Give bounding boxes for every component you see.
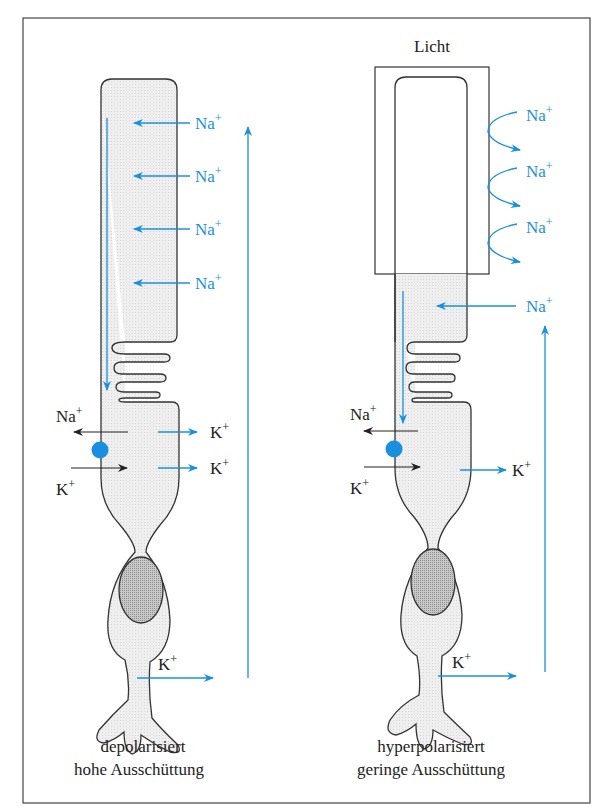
svg-text:Na+: Na+ <box>195 111 222 133</box>
ion-pump-dot <box>386 441 403 458</box>
svg-text:Na+: Na+ <box>526 294 553 316</box>
svg-text:K+: K+ <box>452 650 471 672</box>
light-box <box>375 67 489 274</box>
svg-text:Na+: Na+ <box>350 402 377 424</box>
svg-text:K+: K+ <box>350 476 369 498</box>
nucleus <box>119 557 163 623</box>
ion-pump-dot <box>92 442 109 459</box>
svg-text:Na+: Na+ <box>56 404 83 426</box>
light-stimulus-label: Licht <box>414 37 450 56</box>
svg-text:Na+: Na+ <box>526 103 553 125</box>
svg-text:K+: K+ <box>210 420 229 442</box>
left-state-label: depolarisiert <box>101 737 186 756</box>
right-release-label: geringe Ausschüttung <box>357 760 505 779</box>
svg-text:K+: K+ <box>158 652 177 674</box>
svg-text:Na+: Na+ <box>195 164 222 186</box>
right-state-label: hyperpolarisiert <box>377 737 485 756</box>
svg-text:Na+: Na+ <box>526 159 553 181</box>
left-photoreceptor-cell: Na+ Na+ Na+ Na+ Na+ K+ K+ K+ K+ depolari… <box>56 79 248 779</box>
nucleus <box>411 549 455 615</box>
svg-text:Na+: Na+ <box>195 217 222 239</box>
svg-text:K+: K+ <box>56 477 75 499</box>
svg-text:K+: K+ <box>512 458 531 480</box>
photoreceptor-diagram: Na+ Na+ Na+ Na+ Na+ K+ K+ K+ K+ depolari… <box>0 0 610 810</box>
svg-text:K+: K+ <box>210 456 229 478</box>
svg-text:Na+: Na+ <box>526 215 553 237</box>
left-release-label: hohe Ausschüttung <box>74 760 204 779</box>
svg-text:Na+: Na+ <box>195 271 222 293</box>
right-photoreceptor-cell: Licht Na+ Na+ Na+ Na+ Na+ <box>350 37 553 779</box>
